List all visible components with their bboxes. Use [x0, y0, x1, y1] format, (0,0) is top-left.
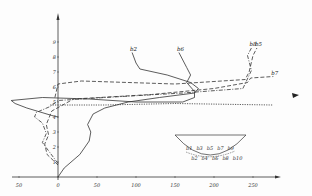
curve-label: b7 — [271, 70, 279, 76]
x-tick-label: 150 — [170, 182, 180, 188]
y-tick-label: 8 — [53, 54, 56, 60]
cross-section-inset: b1b2b3b4b5b6b7b8b9b10 — [175, 135, 246, 161]
curve-label: b6 — [177, 46, 185, 52]
line-chart: 50050100150200250 123456789 b2b6b7b8b5 b… — [0, 0, 312, 196]
inset-point-label: b7 — [217, 145, 224, 151]
x-ticks: 50050100150200250 — [16, 176, 259, 188]
inset-point-label: b4 — [202, 155, 208, 161]
inset-point-label: b2 — [191, 155, 197, 161]
y-axis-arrow-icon — [57, 13, 60, 20]
inset-point-label: b10 — [233, 155, 243, 161]
inset-point-label: b9 — [228, 145, 235, 151]
inset-point-label: b3 — [196, 145, 202, 151]
inset-point-label: b1 — [186, 145, 192, 151]
y-tick-label: 6 — [53, 84, 57, 90]
y-tick-label: 2 — [52, 144, 56, 150]
x-tick-label: 50 — [94, 182, 101, 188]
curve-label: b2 — [130, 46, 138, 52]
y-tick-label: 1 — [53, 159, 56, 165]
inset-point-label: b6 — [212, 155, 219, 161]
chart-container: 50050100150200250 123456789 b2b6b7b8b5 b… — [0, 0, 312, 196]
series-line-b6 — [11, 53, 194, 118]
x-tick-label: 0 — [56, 182, 60, 188]
curve-label: b5 — [255, 41, 263, 47]
y-tick-label: 3 — [53, 129, 56, 135]
series-line-b7 — [45, 77, 274, 166]
inset-point-label: b8 — [222, 155, 228, 161]
flow-arrow-icon — [292, 93, 299, 98]
x-tick-label: 100 — [131, 182, 141, 188]
series-line-b2 — [58, 53, 198, 178]
x-tick-label: 250 — [247, 182, 258, 188]
y-tick-label: 7 — [53, 69, 57, 75]
series-line-reference — [50, 104, 272, 106]
y-tick-label: 9 — [53, 39, 57, 45]
x-axis-arrow-icon — [275, 176, 281, 179]
curve-labels: b2b6b7b8b5 — [130, 41, 279, 76]
x-tick-label: 50 — [16, 182, 23, 188]
inset-point-label: b5 — [207, 145, 213, 151]
x-tick-label: 200 — [208, 182, 219, 188]
